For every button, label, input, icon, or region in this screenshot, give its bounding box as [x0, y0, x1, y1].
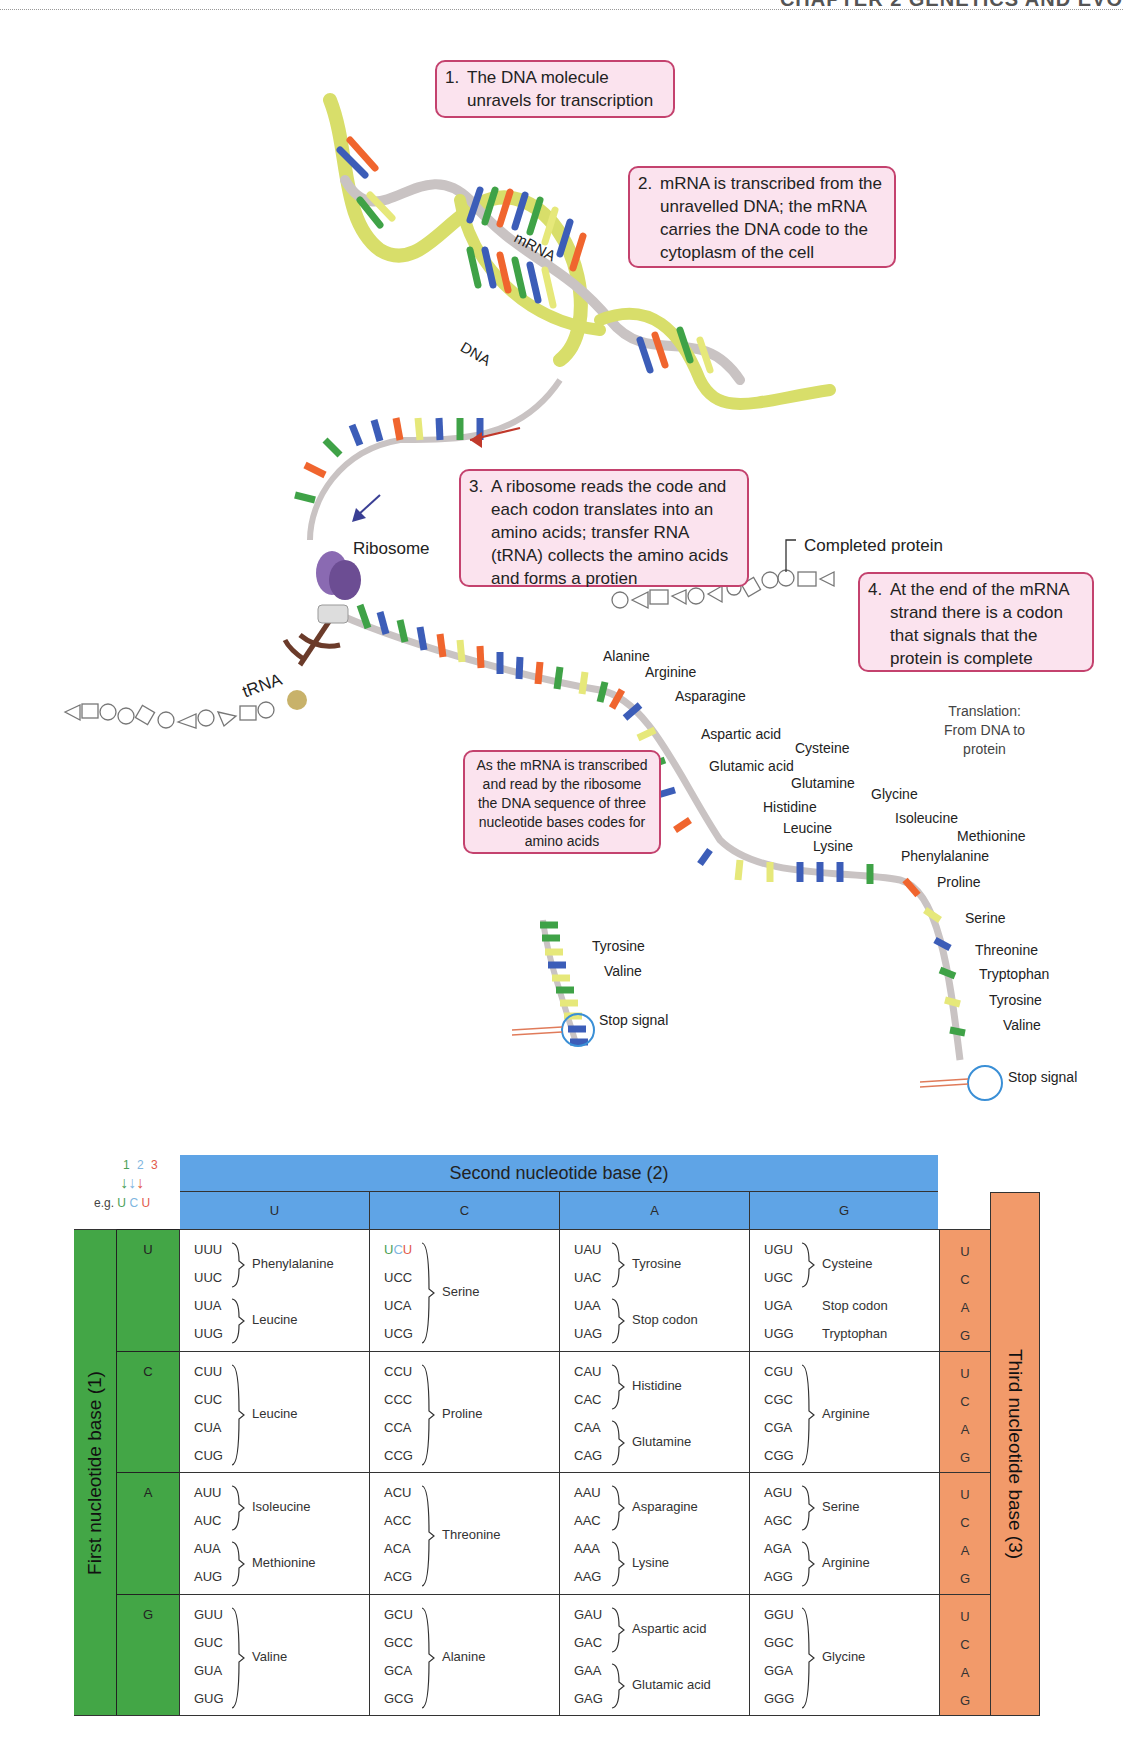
brace-icon: [230, 1364, 246, 1466]
codon: UGC: [764, 1270, 793, 1285]
amino-acid: Tryptophan: [822, 1326, 887, 1341]
codon: GCU: [384, 1607, 413, 1622]
aa-label: Isoleucine: [895, 810, 958, 826]
brace-icon: [800, 1485, 816, 1531]
codon: CCA: [384, 1420, 411, 1435]
amino-acid: Arginine: [822, 1555, 870, 1570]
codon: AAG: [574, 1569, 601, 1584]
brace-icon: [800, 1242, 816, 1288]
first-base-u: U: [117, 1229, 180, 1351]
codon: UAA: [574, 1298, 601, 1313]
first-base-g: G: [117, 1594, 180, 1716]
brace-icon: [610, 1663, 626, 1709]
aa-label: Tryptophan: [979, 966, 1049, 982]
codon: CGA: [764, 1420, 792, 1435]
third-base-letter: C: [955, 1394, 975, 1409]
codon-cell: CGUCGCCGACGGArginine: [750, 1351, 940, 1473]
codon: CAG: [574, 1448, 602, 1463]
brace-icon: [610, 1420, 626, 1466]
third-base-letter: A: [955, 1543, 975, 1558]
first-base-c: C: [117, 1351, 180, 1473]
third-base-letter: A: [955, 1665, 975, 1680]
codon: ACG: [384, 1569, 412, 1584]
codon: AAA: [574, 1541, 600, 1556]
codon: UGG: [764, 1326, 794, 1341]
codon: AGU: [764, 1485, 792, 1500]
arrow-down-icon: ↓: [128, 1174, 136, 1191]
translation-note: Translation: From DNA to protein: [932, 702, 1037, 759]
aa-label: Proline: [937, 874, 981, 890]
amino-acid: Methionine: [252, 1555, 316, 1570]
codon: GUG: [194, 1691, 224, 1706]
codon-cell: UUUUUCUUAUUGPhenylalanineLeucine: [180, 1229, 370, 1351]
codon: GGA: [764, 1663, 793, 1678]
codon: CCU: [384, 1364, 412, 1379]
third-base-letter: A: [955, 1300, 975, 1315]
codon: UAC: [574, 1270, 601, 1285]
amino-acid: Threonine: [442, 1527, 501, 1542]
second-base-g: G: [750, 1192, 938, 1229]
codon: UCG: [384, 1326, 413, 1341]
brace-icon: [610, 1485, 626, 1531]
amino-acid: Serine: [822, 1499, 860, 1514]
amino-acid: Serine: [442, 1284, 480, 1299]
second-base-u: U: [180, 1192, 370, 1229]
third-base-letter: G: [955, 1571, 975, 1586]
codon-cell: AAUAACAAAAAGAsparagineLysine: [560, 1472, 750, 1594]
aa-label: Lysine: [813, 838, 853, 854]
label-completed-protein: Completed protein: [804, 536, 943, 556]
codon: UUC: [194, 1270, 222, 1285]
third-base-group: UCAG: [938, 1472, 990, 1594]
third-base-letter: A: [955, 1422, 975, 1437]
aa-label: Phenylalanine: [901, 848, 989, 864]
third-base-group: UCAG: [938, 1351, 990, 1473]
codon: UUU: [194, 1242, 222, 1257]
codon-cell: UGUUGCUGAUGGCysteineStop codonTryptophan: [750, 1229, 940, 1351]
amino-acid: Glutamic acid: [632, 1677, 711, 1692]
amino-acid: Asparagine: [632, 1499, 698, 1514]
codon: UCC: [384, 1270, 412, 1285]
codon: AUG: [194, 1569, 222, 1584]
aa-label: Alanine: [603, 648, 650, 664]
aa-label: Arginine: [645, 664, 696, 680]
brace-icon: [610, 1298, 626, 1344]
amino-acid: Glycine: [822, 1649, 865, 1664]
second-base-title: Second nucleotide base (2): [180, 1155, 938, 1192]
codon-cell: AUUAUCAUAAUGIsoleucineMethionine: [180, 1472, 370, 1594]
codon: GAU: [574, 1607, 602, 1622]
codon: GAC: [574, 1635, 602, 1650]
amino-acid: Arginine: [822, 1406, 870, 1421]
codon: UUG: [194, 1326, 223, 1341]
codon: GUA: [194, 1663, 222, 1678]
codon: UUA: [194, 1298, 221, 1313]
codon: UAU: [574, 1242, 601, 1257]
codon: CUA: [194, 1420, 221, 1435]
third-base-letter: G: [955, 1328, 975, 1343]
codon-cell: UCUUCCUCAUCGSerine: [370, 1229, 560, 1351]
third-base-group: UCAG: [938, 1229, 990, 1351]
brace-icon: [610, 1364, 626, 1410]
codon-cell: GCUGCCGCAGCGAlanine: [370, 1594, 560, 1716]
amino-acid: Alanine: [442, 1649, 485, 1664]
codon: AGA: [764, 1541, 791, 1556]
third-base-letter: C: [955, 1272, 975, 1287]
stop-signal-circle-icon: [968, 1066, 1002, 1100]
brace-icon: [230, 1485, 246, 1531]
codon: ACA: [384, 1541, 411, 1556]
label-ribosome: Ribosome: [353, 539, 430, 559]
codon: GGU: [764, 1607, 794, 1622]
brace-icon: [420, 1242, 436, 1344]
codon: CUU: [194, 1364, 222, 1379]
codon-cell: CAUCACCAACAGHistidineGlutamine: [560, 1351, 750, 1473]
callout-step-1: 1. The DNA molecule unravels for transcr…: [435, 60, 675, 118]
amino-acid: Glutamine: [632, 1434, 691, 1449]
amino-acid: Cysteine: [822, 1256, 873, 1271]
codon: AAC: [574, 1513, 601, 1528]
third-base-letter: U: [955, 1244, 975, 1259]
brace-icon: [800, 1541, 816, 1587]
amino-acid-ball-icon: [287, 690, 307, 710]
amino-acid: Phenylalanine: [252, 1256, 334, 1271]
second-base-a: A: [560, 1192, 750, 1229]
callout-mrna-note: As the mRNA is transcribed and read by t…: [463, 750, 661, 854]
aa-label: Glutamine: [791, 775, 855, 791]
